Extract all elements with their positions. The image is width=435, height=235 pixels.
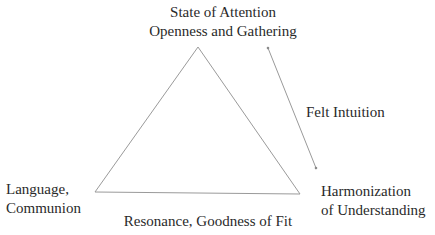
bottom-edge-label: Resonance, Goodness of Fit <box>108 212 308 231</box>
bottom-right-line1: Harmonization <box>321 182 426 201</box>
top-vertex-label: State of Attention Openness and Gatherin… <box>140 3 306 41</box>
top-vertex-line2: Openness and Gathering <box>140 22 306 41</box>
top-vertex-line1: State of Attention <box>140 3 306 22</box>
diagram-canvas: State of Attention Openness and Gatherin… <box>0 0 435 235</box>
bottom-left-vertex-label: Language, Communion <box>6 180 81 218</box>
felt-intuition-label: Felt Intuition <box>306 103 385 122</box>
bottom-left-line2: Communion <box>6 199 81 218</box>
felt-intuition-text: Felt Intuition <box>306 104 385 120</box>
bottom-right-vertex-label: Harmonization of Understanding <box>321 182 426 220</box>
bottom-right-line2: of Understanding <box>321 201 426 220</box>
triangle-shape <box>95 47 300 194</box>
bottom-edge-text: Resonance, Goodness of Fit <box>124 213 292 229</box>
bottom-left-line1: Language, <box>6 180 81 199</box>
